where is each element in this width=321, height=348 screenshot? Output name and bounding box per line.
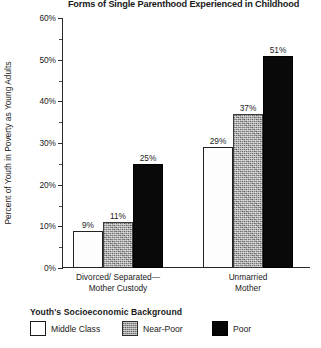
bar-near-poor-group-1: 11% <box>103 222 133 268</box>
bar-near-poor-group-2: 37% <box>233 114 263 268</box>
x-axis-category-label-2: UnmarriedMother <box>173 272 321 293</box>
y-tick-label: 20% <box>39 180 56 190</box>
category-label-line: Divorced/ Separated— <box>43 272 193 283</box>
y-tick-major <box>58 60 63 61</box>
category-label-line: Mother <box>173 283 321 294</box>
y-tick-minor <box>59 122 62 123</box>
x-axis-category-label-1: Divorced/ Separated—Mother Custody <box>43 272 193 293</box>
legend-item-label: Near-Poor <box>143 324 183 334</box>
y-tick-major <box>58 18 63 19</box>
y-tick-label: 50% <box>39 55 56 65</box>
y-tick-major <box>58 268 63 269</box>
bar-poor-group-1: 25% <box>133 164 163 268</box>
y-tick-minor <box>59 206 62 207</box>
bar-value-label: 25% <box>140 153 157 163</box>
bar-value-label: 29% <box>210 136 227 146</box>
bar-value-label: 11% <box>110 211 126 221</box>
y-axis-title-text: Percent of Youth in Poverty as Young Adu… <box>3 62 13 225</box>
legend-swatch-near-poor-icon <box>122 321 138 336</box>
y-tick-minor <box>59 81 62 82</box>
bar-value-label: 51% <box>270 45 287 55</box>
bar-middle-class-group-1: 9% <box>73 231 103 269</box>
bar-value-label: 9% <box>82 220 94 230</box>
y-tick-label: 30% <box>39 138 56 148</box>
y-tick-label: 10% <box>39 221 56 231</box>
legend-item-poor[interactable]: Poor <box>212 321 251 336</box>
legend: Youth's Socioeconomic Background Middle … <box>30 307 321 339</box>
bar-middle-class-group-2: 29% <box>203 147 233 268</box>
y-axis-title: Percent of Youth in Poverty as Young Adu… <box>2 18 14 268</box>
y-tick-major <box>58 185 63 186</box>
plot-area: 0%10%20%30%40%50%60% 9%11%25%29%37%51% <box>62 18 310 268</box>
y-tick-minor <box>59 164 62 165</box>
legend-item-label: Middle Class <box>51 324 100 334</box>
chart-title: Forms of Single Parenthood Experienced i… <box>46 0 321 9</box>
legend-swatch-middle-class-icon <box>30 321 46 336</box>
legend-swatch-poor-icon <box>212 321 228 336</box>
bar-poor-group-2: 51% <box>263 56 293 269</box>
category-label-line: Mother Custody <box>43 283 193 294</box>
y-tick-minor <box>59 247 62 248</box>
y-tick-major <box>58 101 63 102</box>
legend-title: Youth's Socioeconomic Background <box>30 307 321 317</box>
legend-item-label: Poor <box>233 324 251 334</box>
legend-item-near-poor[interactable]: Near-Poor <box>122 321 183 336</box>
category-label-line: Unmarried <box>173 272 321 283</box>
y-tick-label: 40% <box>39 96 56 106</box>
y-tick-major <box>58 143 63 144</box>
y-tick-minor <box>59 39 62 40</box>
legend-item-middle-class[interactable]: Middle Class <box>30 321 100 336</box>
y-tick-label: 60% <box>39 13 56 23</box>
legend-items: Middle ClassNear-PoorPoor <box>30 321 321 339</box>
bar-value-label: 37% <box>240 103 257 113</box>
y-tick-major <box>58 226 63 227</box>
